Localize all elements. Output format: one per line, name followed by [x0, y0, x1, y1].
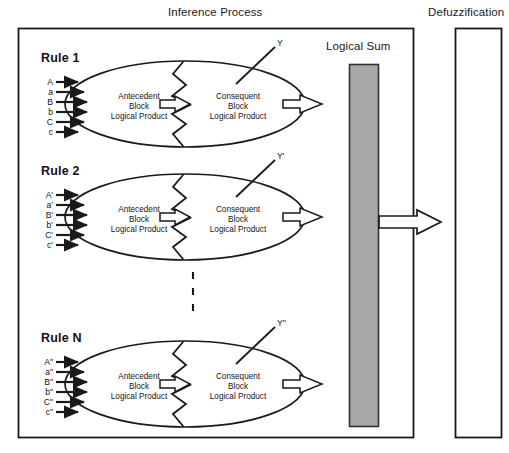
rule-1-output-arrow	[283, 95, 322, 113]
rule-2-consequent-line3: Logical Product	[196, 225, 280, 236]
rule-n-antecedent-line2: Block	[97, 382, 181, 393]
rule-n-input-label-3: b"	[37, 387, 53, 397]
rule-n-antecedent-line1: Antecedent	[97, 372, 181, 383]
rule-2-output-label: Y'	[277, 151, 284, 161]
rule-n-input-label-0: A"	[37, 357, 53, 367]
rule-1-consequent-line2: Block	[196, 102, 280, 113]
rule-2-antecedent-line3: Logical Product	[97, 225, 181, 236]
rule-n-consequent-line3: Logical Product	[196, 392, 280, 403]
rule-2-input-label-4: C'	[37, 230, 53, 240]
rule-1-input-label-2: B	[37, 97, 53, 107]
rule-2-group	[56, 160, 322, 260]
rule-n-input-label-4: C"	[37, 397, 53, 407]
rule-2-input-label-1: a'	[37, 200, 53, 210]
rule-1-consequent-line3: Logical Product	[196, 112, 280, 123]
rule-1-input-label-1: a	[37, 87, 53, 97]
rule-n-consequent-line1: Consequent	[196, 372, 280, 383]
rule-n-label: Rule N	[41, 331, 82, 345]
rule-2-consequent-line1: Consequent	[196, 205, 280, 216]
rule-2-antecedent-line2: Block	[97, 215, 181, 226]
rule-1-antecedent-line3: Logical Product	[97, 112, 181, 123]
rule-n-input-label-1: a"	[37, 367, 53, 377]
rule-1-consequent-line1: Consequent	[196, 92, 280, 103]
rule-n-input-label-5: c"	[37, 407, 53, 417]
rule-1-group	[56, 47, 322, 147]
inference-process-title: Inference Process	[168, 6, 262, 18]
rule-2-antecedent-line1: Antecedent	[97, 205, 181, 216]
rule-2-label: Rule 2	[41, 164, 80, 178]
rule-1-antecedent-line2: Block	[97, 102, 181, 113]
rule-1-output-label: Y	[277, 38, 283, 48]
rule-n-output-arrow	[283, 375, 322, 393]
rule-2-input-label-3: b'	[37, 220, 53, 230]
rule-1-input-label-5: c	[37, 127, 53, 137]
logical-sum-bar	[350, 65, 379, 427]
rule-1-antecedent-line1: Antecedent	[97, 92, 181, 103]
rule-n-consequent-line2: Block	[196, 382, 280, 393]
rule-2-output-arrow	[283, 208, 322, 226]
rule-1-label: Rule 1	[41, 51, 80, 65]
rule-n-output-label: Y"	[277, 318, 286, 328]
defuzzification-panel	[456, 29, 502, 438]
rule-n-input-label-2: B"	[37, 377, 53, 387]
rule-2-input-label-2: B'	[37, 210, 53, 220]
logical-sum-title: Logical Sum	[326, 40, 390, 52]
defuzzification-transfer-arrow	[379, 210, 441, 234]
rule-2-input-label-5: c'	[37, 240, 53, 250]
defuzzification-title: Defuzzification	[428, 6, 504, 18]
rule-1-input-label-4: C	[37, 117, 53, 127]
rule-2-input-label-0: A'	[37, 190, 53, 200]
rule-n-antecedent-line3: Logical Product	[97, 392, 181, 403]
diagram-canvas: Inference Process Defuzzification Logica…	[0, 0, 509, 453]
rule-n-group	[56, 327, 322, 427]
rule-2-consequent-line2: Block	[196, 215, 280, 226]
rule-1-input-label-0: A	[37, 77, 53, 87]
rule-1-input-label-3: b	[37, 107, 53, 117]
